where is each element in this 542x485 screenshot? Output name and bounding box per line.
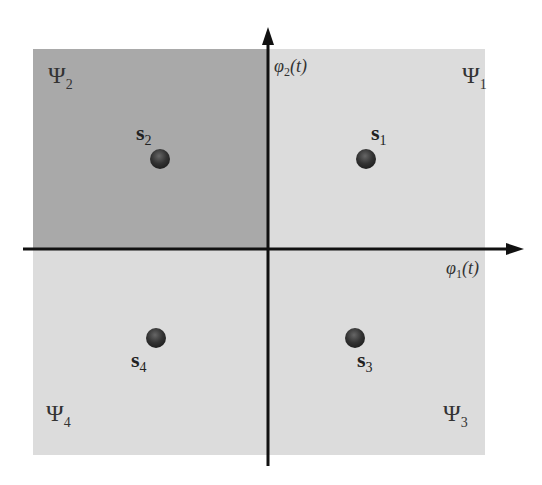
region-label-psi-4: Ψ4 [46,400,71,431]
signal-point-s2 [150,149,170,169]
x-axis-arrow-icon [506,243,524,255]
region-label-psi-3: Ψ3 [443,400,468,431]
region-label-psi-1: Ψ1 [462,62,487,93]
x-axis-label: φ1(t) [446,258,479,282]
y-axis-label: φ2(t) [274,56,307,80]
signal-point-s4 [146,328,166,348]
signal-label-s2: s2 [136,120,152,149]
signal-label-s1: s1 [371,120,387,149]
signal-point-s1 [356,149,376,169]
signal-point-s3 [345,328,365,348]
signal-label-s3: s3 [357,347,373,376]
signal-label-s4: s4 [131,347,147,376]
y-axis-arrow-icon [262,27,274,45]
region-label-psi-2: Ψ2 [48,62,73,93]
